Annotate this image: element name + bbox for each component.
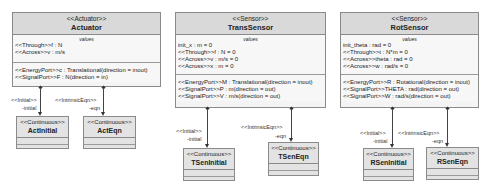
assoc-role: -initial: [187, 136, 201, 142]
value-item: <<Through>>t : N*m = 0: [343, 49, 476, 56]
association-line[interactable]: [291, 109, 292, 139]
values-compartment: values init_theta : rad = 0 <<Through>>t…: [341, 35, 478, 75]
values-compartment: values init_x : m = 0 <<Through>>f : N =…: [176, 35, 325, 75]
assoc-stereotype: <<Initial>>: [176, 128, 202, 134]
assoc-role: -eqn: [89, 105, 100, 111]
class-name: RSenEqn: [427, 157, 478, 168]
value-item: <<Through>>f : N = 0: [178, 49, 323, 56]
class-header: <<Actuator>> Actuator: [13, 13, 160, 35]
class-actuator[interactable]: <<Actuator>> Actuator values <<Through>>…: [12, 12, 161, 87]
empty-compartment: [269, 164, 318, 171]
value-item: init_x : m = 0: [178, 42, 323, 49]
assoc-stereotype: <<IntrinsicEqn>>: [55, 97, 97, 103]
empty-compartment: [84, 138, 135, 145]
class-header: <<Continuous>> RSenInitial: [364, 149, 413, 170]
association-line[interactable]: [207, 109, 208, 145]
value-item: init_theta : rad = 0: [343, 42, 476, 49]
assoc-stereotype: <<IntrinsicEqn>>: [398, 130, 440, 136]
port-item: <<EnergyPort>>M : Translational(directio…: [178, 79, 323, 86]
values-compartment: values <<Through>>f : N <<Across>>v : m/…: [13, 35, 160, 63]
stereotype-label: <<Continuous>>: [427, 148, 478, 157]
class-rot-sensor[interactable]: <<Sensor>> RotSensor values init_theta :…: [340, 12, 479, 108]
ports-compartment: <<EnergyPort>>R : Rotational(direction =…: [341, 75, 478, 101]
empty-compartment: [17, 138, 68, 145]
association-line[interactable]: [392, 109, 393, 145]
port-item: <<EnergyPort>>c : Translational(directio…: [15, 67, 158, 74]
association-line[interactable]: [40, 88, 41, 113]
value-item: <<Across>>theta : rad = 0: [343, 56, 476, 63]
class-act-eqn[interactable]: <<Continuous>> ActEqn: [83, 116, 136, 149]
assoc-stereotype: <<IntrinsicEqn>>: [241, 124, 283, 130]
class-tsen-eqn[interactable]: <<Continuous>> TSenEqn: [268, 142, 319, 176]
class-header: <<Sensor>> TransSensor: [176, 13, 325, 35]
empty-compartment: [184, 170, 234, 177]
empty-compartment: [427, 176, 478, 182]
port-item: <<EnergyPort>>R : Rotational(direction =…: [343, 79, 476, 86]
stereotype-label: <<Continuous>>: [17, 117, 68, 126]
empty-compartment: [364, 177, 413, 183]
class-name: TSenEqn: [269, 152, 318, 163]
class-trans-sensor[interactable]: <<Sensor>> TransSensor values init_x : m…: [175, 12, 326, 108]
ports-compartment: <<EnergyPort>>M : Translational(directio…: [176, 75, 325, 101]
port-item: <<SignalPort>>V : m/s(direction = out): [178, 93, 323, 100]
class-name: TSenInitial: [184, 158, 234, 169]
value-item: <<Across>>w : rad/s = 0: [343, 63, 476, 70]
stereotype-label: <<Continuous>>: [84, 117, 135, 126]
class-name: RSenInitial: [364, 158, 413, 169]
class-name: TransSensor: [176, 23, 325, 35]
empty-compartment: [17, 145, 68, 151]
value-item: <<Through>>f : N: [15, 42, 158, 49]
class-name: Actuator: [13, 23, 160, 35]
assoc-role: -initial: [373, 138, 387, 144]
assoc-stereotype: <<Initial>>: [11, 97, 37, 103]
value-item: <<Across>>v : m/s: [15, 49, 158, 56]
class-header: <<Sensor>> RotSensor: [341, 13, 478, 35]
class-header: <<Continuous>> TSenInitial: [184, 149, 234, 170]
class-header: <<Continuous>> ActEqn: [84, 117, 135, 138]
class-rsen-eqn[interactable]: <<Continuous>> RSenEqn: [426, 147, 479, 180]
class-header: <<Continuous>> TSenEqn: [269, 143, 318, 164]
class-header: <<Continuous>> RSenEqn: [427, 148, 478, 169]
association-line[interactable]: [447, 109, 448, 144]
class-act-initial[interactable]: <<Continuous>> ActInitial: [16, 116, 69, 149]
class-tsen-initial[interactable]: <<Continuous>> TSenInitial: [183, 148, 235, 181]
empty-compartment: [269, 171, 318, 177]
stereotype-label: <<Sensor>>: [341, 13, 478, 23]
stereotype-label: <<Sensor>>: [176, 13, 325, 23]
port-item: <<SignalPort>>THETA : rad(direction = ou…: [343, 86, 476, 93]
port-item: <<SignalPort>>P : m(direction = out): [178, 86, 323, 93]
assoc-role: -eqn: [432, 138, 443, 144]
class-header: <<Continuous>> ActInitial: [17, 117, 68, 138]
empty-compartment: [364, 170, 413, 177]
stereotype-label: <<Continuous>>: [269, 143, 318, 152]
empty-compartment: [184, 177, 234, 183]
class-name: ActEqn: [84, 126, 135, 137]
class-rsen-initial[interactable]: <<Continuous>> RSenInitial: [363, 148, 414, 181]
assoc-role: -eqn: [275, 133, 286, 139]
stereotype-label: <<Actuator>>: [13, 13, 160, 23]
port-item: <<SignalPort>>F : N(direction = in): [15, 74, 158, 81]
value-item: <<Across>>x : m = 0: [178, 63, 323, 70]
ports-compartment: <<EnergyPort>>c : Translational(directio…: [13, 63, 160, 82]
value-item: <<Across>>v : m/s = 0: [178, 56, 323, 63]
empty-compartment: [427, 169, 478, 176]
empty-compartment: [84, 145, 135, 151]
class-name: RotSensor: [341, 23, 478, 35]
stereotype-label: <<Continuous>>: [364, 149, 413, 158]
class-name: ActInitial: [17, 126, 68, 137]
assoc-role: -initial: [22, 105, 36, 111]
association-line[interactable]: [103, 88, 104, 113]
stereotype-label: <<Continuous>>: [184, 149, 234, 158]
port-item: <<SignalPort>>W : rad/s(direction = out): [343, 93, 476, 100]
assoc-stereotype: <<Initial>>: [360, 130, 386, 136]
